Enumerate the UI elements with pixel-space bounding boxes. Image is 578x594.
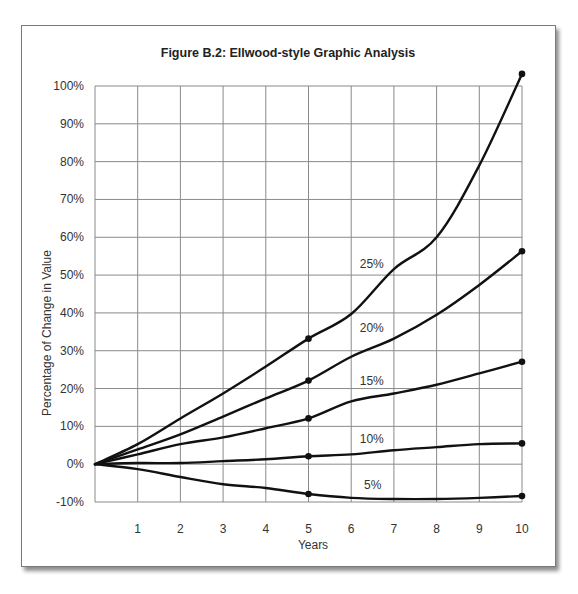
x-tick-label: 1 (134, 522, 141, 536)
x-axis-label: Years (298, 538, 328, 552)
series-label: 10% (360, 432, 384, 446)
y-tick-label: 60% (60, 230, 84, 244)
data-point-marker (519, 71, 526, 78)
x-tick-label: 7 (391, 522, 398, 536)
y-tick-label: 70% (60, 192, 84, 206)
x-tick-label: 8 (433, 522, 440, 536)
data-point-marker (305, 335, 312, 342)
data-point-marker (519, 358, 526, 365)
series-label: 15% (360, 374, 384, 388)
y-tick-label: 100% (53, 79, 84, 93)
series-label: 25% (360, 257, 384, 271)
x-axis-ticks: 12345678910 (134, 522, 529, 536)
x-tick-label: 2 (177, 522, 184, 536)
x-tick-label: 10 (515, 522, 529, 536)
chart-canvas: Figure B.2: Ellwood-style Graphic Analys… (0, 0, 578, 594)
y-tick-label: 80% (60, 155, 84, 169)
y-tick-label: 20% (60, 382, 84, 396)
y-tick-label: 90% (60, 117, 84, 131)
data-point-marker (305, 491, 312, 498)
y-tick-label: 40% (60, 306, 84, 320)
data-point-marker (305, 377, 312, 384)
y-tick-label: 30% (60, 344, 84, 358)
x-tick-label: 4 (262, 522, 269, 536)
data-point-marker (305, 415, 312, 422)
y-tick-label: -10% (56, 495, 84, 509)
data-point-marker (519, 248, 526, 255)
grid (95, 86, 522, 502)
data-point-marker (519, 440, 526, 447)
series-label: 20% (360, 321, 384, 335)
y-axis-label: Percentage of Change in Value (40, 250, 54, 416)
data-point-marker (519, 493, 526, 500)
x-tick-label: 6 (348, 522, 355, 536)
series-curves (95, 71, 525, 500)
x-tick-label: 3 (220, 522, 227, 536)
chart-title: Figure B.2: Ellwood-style Graphic Analys… (161, 46, 416, 60)
y-tick-label: 0% (67, 457, 85, 471)
series-label: 5% (364, 478, 382, 492)
data-point-marker (305, 453, 312, 460)
y-tick-label: 10% (60, 419, 84, 433)
y-axis-ticks: 100%90%80%70%60%50%40%30%20%10%0%-10% (53, 79, 84, 509)
y-tick-label: 50% (60, 268, 84, 282)
x-tick-label: 5 (305, 522, 312, 536)
x-tick-label: 9 (476, 522, 483, 536)
